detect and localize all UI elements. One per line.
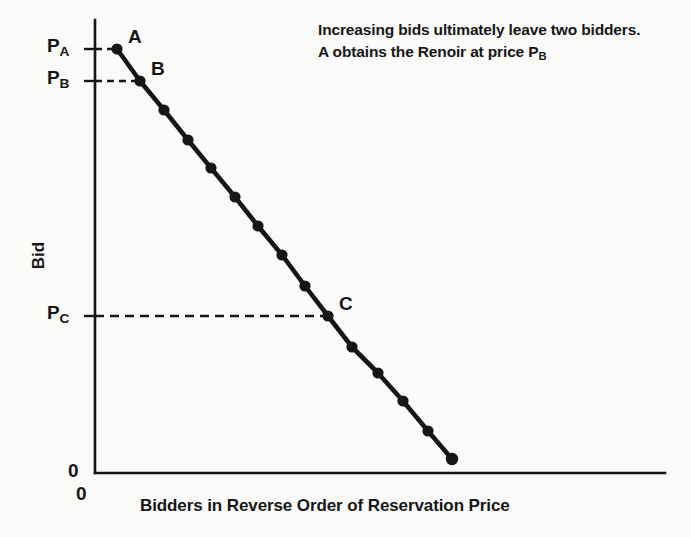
annotation-line-1: Increasing bids ultimately leave two bid… [318, 19, 640, 41]
data-point [276, 249, 287, 260]
auction-bid-chart: Increasing bids ultimately leave two bid… [0, 0, 691, 537]
x-axis-origin-label: 0 [76, 484, 87, 503]
data-point [397, 395, 408, 406]
y-axis-title: Bid [30, 216, 47, 296]
pb-prefix: P [47, 67, 59, 88]
annotation-line-2-subscript: B [538, 50, 546, 62]
pc-subscript: C [59, 311, 69, 326]
y-tick-label-pa: PA [47, 36, 69, 59]
data-point [205, 162, 216, 173]
data-point-label-a: A [128, 27, 142, 46]
data-point-markers [111, 43, 458, 465]
annotation-text: Increasing bids ultimately leave two bid… [318, 19, 640, 65]
y-tick-label-pc: PC [47, 303, 69, 326]
chart-plot-area [0, 0, 691, 537]
data-point-label-b: B [151, 59, 165, 78]
y-tick-label-pb: PB [47, 68, 69, 91]
data-point [158, 104, 169, 115]
pa-subscript: A [59, 44, 69, 59]
data-point [229, 191, 240, 202]
data-point [299, 280, 310, 291]
data-point-a [111, 43, 122, 54]
annotation-line-2-prefix: A obtains the Renoir at price P [318, 43, 538, 60]
data-point-label-c: C [339, 294, 353, 313]
annotation-line-2: A obtains the Renoir at price PB [318, 41, 640, 65]
data-point-b [134, 75, 145, 86]
data-point [446, 453, 458, 465]
data-point-c [322, 310, 333, 321]
pb-subscript: B [59, 76, 69, 91]
pc-prefix: P [47, 302, 59, 323]
y-axis-origin-label: 0 [68, 461, 79, 480]
data-point [372, 367, 383, 378]
x-axis-title: Bidders in Reverse Order of Reservation … [140, 497, 510, 514]
data-point [422, 425, 433, 436]
data-point [182, 134, 193, 145]
pa-prefix: P [47, 35, 59, 56]
data-point [346, 341, 357, 352]
data-point [252, 220, 263, 231]
